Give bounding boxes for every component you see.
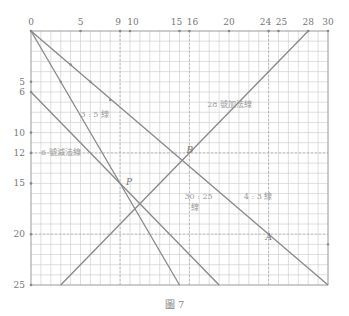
marker-dot — [60, 81, 62, 83]
y-tick-label: 10 — [14, 128, 26, 138]
tick-dot — [228, 30, 231, 33]
label-ratio-3025: 30 : 25 — [184, 192, 212, 201]
y-tick-label: 20 — [14, 229, 26, 239]
tick-dot — [30, 30, 33, 33]
x-tick-label: 20 — [223, 17, 235, 27]
label-ratio-43: 4 : 3 線 — [244, 191, 273, 201]
tick-dot — [119, 30, 122, 33]
tick-dot — [30, 131, 33, 134]
marker-dot — [89, 81, 91, 83]
point-label-B: B — [185, 145, 193, 155]
x-tick-label: 0 — [28, 17, 34, 27]
tick-dot — [267, 30, 270, 33]
tick-dot — [30, 152, 33, 155]
figure-diagram: 059101516202425283056101215202528 號加法線3 … — [0, 0, 349, 316]
x-tick-label: 5 — [78, 17, 84, 27]
label-line-28: 28 號加法線 — [207, 99, 252, 109]
tick-dot — [188, 30, 191, 33]
y-tick-label: 5 — [19, 77, 25, 87]
tick-dot — [307, 30, 310, 33]
y-tick-label: 6 — [19, 87, 25, 97]
tick-dot — [178, 30, 181, 33]
tick-dot — [79, 30, 82, 33]
figure-caption: 圖 7 — [0, 296, 349, 311]
x-tick-label: 30 — [322, 17, 334, 27]
label-ratio-3025-b: 線 — [191, 202, 199, 212]
tick-dot — [30, 284, 33, 287]
series-line — [31, 92, 219, 285]
tick-dot — [277, 30, 280, 33]
marker-dot — [69, 63, 71, 65]
series-line — [61, 31, 309, 285]
x-tick-label: 24 — [260, 17, 272, 27]
tick-dot — [30, 81, 33, 84]
marker-dot — [327, 243, 329, 245]
series-line — [31, 31, 180, 285]
tick-dot — [30, 91, 33, 94]
y-tick-label: 25 — [14, 280, 26, 290]
x-tick-label: 25 — [276, 17, 288, 27]
x-tick-label: 28 — [302, 17, 314, 27]
label-line-6: 6 號減法線 — [41, 147, 81, 157]
tick-dot — [327, 30, 330, 33]
point-label-P: P — [125, 177, 133, 187]
tick-dot — [30, 233, 33, 236]
marker-dot — [109, 99, 111, 101]
label-line-35: 3 : 5 線 — [81, 109, 110, 119]
x-tick-label: 10 — [127, 17, 139, 27]
x-tick-label: 15 — [171, 17, 183, 27]
y-tick-label: 12 — [14, 148, 25, 158]
point-label-A: A — [265, 232, 273, 242]
x-tick-label: 16 — [187, 17, 199, 27]
tick-dot — [129, 30, 132, 33]
x-tick-label: 9 — [115, 17, 121, 27]
tick-dot — [30, 182, 33, 185]
y-tick-label: 15 — [14, 178, 26, 188]
